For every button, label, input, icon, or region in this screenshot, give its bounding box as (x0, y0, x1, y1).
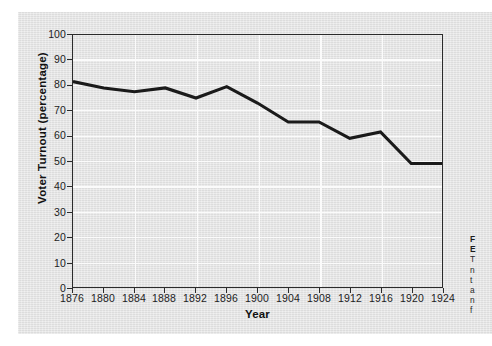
caption-heading-line-1: F (470, 234, 492, 244)
figure-page: Voter Turnout (percentage) 100 90 80 70 … (0, 0, 492, 346)
x-tick-mark-1884 (134, 288, 135, 293)
caption-heading-line-2: E (470, 244, 492, 254)
y-tick-label-30: 30 (22, 206, 66, 218)
caption-body-line-2: n (470, 265, 492, 275)
x-tick-mark-1912 (350, 288, 351, 293)
x-tick-mark-1916 (381, 288, 382, 293)
y-tick-label-60: 60 (22, 129, 66, 141)
series-voter-turnout (73, 35, 442, 287)
x-tick-mark-1920 (412, 288, 413, 293)
y-tick-label-100: 100 (22, 28, 66, 40)
x-tick-mark-1876 (72, 288, 73, 293)
caption-body-line-6: f (470, 305, 492, 315)
plot-area (72, 34, 443, 288)
x-tick-mark-1908 (319, 288, 320, 293)
x-tick-mark-1888 (164, 288, 165, 293)
y-tick-label-50: 50 (22, 155, 66, 167)
x-axis-label: Year (72, 308, 443, 320)
y-tick-label-40: 40 (22, 180, 66, 192)
caption-body-line-4: a (470, 285, 492, 295)
y-tick-label-10: 10 (22, 257, 66, 269)
caption-body-line-5: n (470, 295, 492, 305)
caption-body-line-3: t (470, 275, 492, 285)
x-tick-mark-1900 (257, 288, 258, 293)
y-tick-label-90: 90 (22, 53, 66, 65)
y-tick-label-80: 80 (22, 78, 66, 90)
x-tick-mark-1896 (226, 288, 227, 293)
x-tick-mark-1892 (195, 288, 196, 293)
x-tick-label-1924: 1924 (423, 292, 463, 304)
x-tick-mark-1924 (443, 288, 444, 293)
caption-body-line-1: T (470, 254, 492, 264)
x-tick-mark-1880 (103, 288, 104, 293)
y-tick-label-20: 20 (22, 231, 66, 243)
y-tick-label-70: 70 (22, 104, 66, 116)
figure-caption: F E T n t a n f (470, 234, 492, 316)
line-chart: Voter Turnout (percentage) 100 90 80 70 … (0, 0, 452, 322)
x-tick-mark-1904 (288, 288, 289, 293)
